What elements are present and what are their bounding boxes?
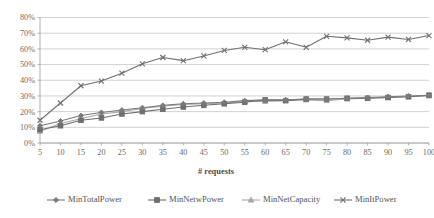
x-axis-tick-labels: 5101520253035404550556065707580859095100: [38, 148, 434, 157]
x-axis-tick-label: 20: [97, 148, 105, 157]
legend-item-minitpower[interactable]: MinItPower: [334, 194, 397, 204]
legend-label: MinNetwPower: [169, 194, 224, 204]
y-axis-tick-labels: 0%10%20%30%40%50%60%70%80%: [20, 13, 35, 148]
data-point-marker: [99, 116, 104, 121]
legend-item-minnetcapacity[interactable]: MinNetCapacity: [242, 194, 321, 204]
x-axis-tick-label: 100: [423, 148, 434, 157]
x-axis-tick-label: 45: [200, 148, 208, 157]
x-axis-tick-label: 30: [138, 148, 146, 157]
legend-item-mintotalpower[interactable]: MinTotalPower: [47, 194, 122, 204]
series-minitpower: [38, 33, 432, 123]
y-axis-tick-label: 50%: [20, 60, 35, 69]
y-axis-tick-label: 0%: [24, 139, 35, 148]
legend-label: MinTotalPower: [68, 194, 122, 204]
x-axis-tick-label: 35: [159, 148, 167, 157]
y-axis-tick-label: 10%: [20, 123, 35, 132]
y-axis-tick-label: 30%: [20, 92, 35, 101]
axes: [38, 18, 430, 146]
x-axis-tick-label: 60: [261, 148, 269, 157]
x-axis-tick-label: 80: [343, 148, 351, 157]
legend-item-minnetwpower[interactable]: MinNetwPower: [148, 194, 224, 204]
x-axis-title: # requests: [198, 167, 235, 176]
x-axis-tick-label: 25: [118, 148, 126, 157]
x-axis-tick-label: 90: [384, 148, 392, 157]
x-axis-tick-label: 55: [241, 148, 249, 157]
series-line: [40, 36, 429, 121]
data-point-marker: [155, 198, 160, 203]
y-axis-tick-label: 60%: [20, 45, 35, 54]
x-axis-tick-label: 50: [220, 148, 228, 157]
y-axis-tick-label: 80%: [20, 13, 35, 22]
data-point-marker: [119, 71, 124, 76]
y-axis-tick-label: 40%: [20, 76, 35, 85]
chart-container: 0%10%20%30%40%50%60%70%80% 5101520253035…: [0, 0, 434, 218]
x-axis-tick-label: 95: [404, 148, 412, 157]
series-line: [40, 95, 429, 126]
y-axis-tick-label: 20%: [20, 108, 35, 117]
x-axis-tick-label: 40: [179, 148, 187, 157]
x-axis-tick-label: 15: [77, 148, 85, 157]
x-axis-tick-label: 70: [302, 148, 310, 157]
legend-label: MinNetCapacity: [263, 194, 321, 204]
chart-legend: MinTotalPowerMinNetwPowerMinNetCapacityM…: [47, 194, 397, 204]
data-point-marker: [58, 100, 63, 105]
x-axis-tick-label: 85: [363, 148, 371, 157]
x-axis-tick-label: 5: [38, 148, 42, 157]
y-axis-tick-label: 70%: [20, 29, 35, 38]
x-axis-tick-label: 10: [56, 148, 64, 157]
gridlines: [40, 18, 429, 144]
data-series: [37, 33, 431, 133]
legend-label: MinItPower: [355, 194, 397, 204]
series-minnetwpower: [38, 93, 432, 132]
x-axis-tick-label: 65: [282, 148, 290, 157]
line-chart: 0%10%20%30%40%50%60%70%80% 5101520253035…: [0, 0, 434, 218]
x-axis-tick-label: 75: [323, 148, 331, 157]
data-point-marker: [78, 113, 83, 118]
data-point-marker: [53, 197, 58, 202]
